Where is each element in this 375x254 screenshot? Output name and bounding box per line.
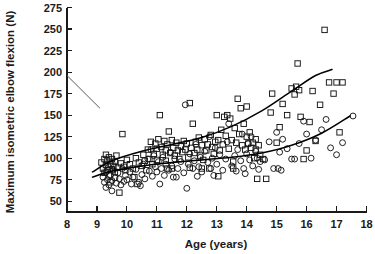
y-tick-label-125: 125 [44, 131, 62, 143]
y-tick-label-175: 175 [44, 88, 62, 100]
x-tick-label-17: 17 [330, 218, 342, 230]
data-point-girls [161, 172, 167, 178]
y-tick-label-75: 75 [50, 174, 62, 186]
data-point-girls [266, 139, 272, 145]
annotations [67, 76, 100, 109]
y-tick-label-200: 200 [44, 66, 62, 78]
y-axis-ticks [67, 8, 72, 202]
data-point-boys [301, 156, 306, 161]
y-tick-label-100: 100 [44, 152, 62, 164]
y-tick-label-50: 50 [50, 195, 62, 207]
data-point-boys [166, 129, 171, 134]
data-point-boys [120, 131, 125, 136]
data-point-girls [340, 140, 346, 146]
data-point-girls [304, 131, 310, 137]
data-point-girls [350, 113, 356, 119]
data-point-girls [128, 181, 134, 187]
data-point-boys [235, 96, 240, 101]
data-point-boys [226, 146, 231, 151]
data-point-boys [268, 110, 273, 115]
elbow-flexion-scatter-figure: 2752502252001751501251007550 89101112131… [0, 0, 375, 254]
pointer-line [67, 76, 100, 109]
data-point-boys [274, 140, 279, 145]
data-point-boys [284, 112, 289, 117]
data-point-girls [130, 174, 136, 180]
data-point-boys [141, 152, 146, 157]
data-point-boys [269, 91, 274, 96]
x-tick-label-13: 13 [211, 218, 223, 230]
y-tick-label-250: 250 [44, 23, 62, 35]
data-point-girls [181, 170, 187, 176]
data-point-boys [334, 80, 339, 85]
data-point-boys [310, 88, 315, 93]
x-axis-title: Age (years) [185, 238, 248, 250]
data-point-girls [235, 147, 241, 153]
data-point-boys [340, 80, 345, 85]
data-points-boys [99, 27, 346, 195]
data-point-girls [280, 136, 286, 142]
data-point-girls [250, 163, 256, 169]
data-point-girls [238, 158, 244, 164]
data-point-girls [109, 188, 115, 194]
y-axis-tick-labels: 2752502252001751501251007550 [44, 2, 62, 208]
data-point-boys [223, 133, 228, 138]
data-point-boys [190, 121, 195, 126]
y-tick-label-275: 275 [44, 2, 62, 14]
data-point-girls [184, 185, 190, 191]
data-point-boys [304, 148, 309, 153]
data-point-boys [280, 101, 285, 106]
data-point-girls [136, 179, 142, 185]
data-point-boys [186, 155, 191, 160]
axes [67, 8, 367, 213]
data-point-girls [334, 152, 340, 158]
data-point-girls [323, 116, 329, 122]
data-point-girls [242, 171, 248, 177]
data-point-boys [157, 112, 162, 117]
y-tick-label-150: 150 [44, 109, 62, 121]
x-tick-label-9: 9 [94, 218, 100, 230]
data-point-boys [331, 91, 336, 96]
x-tick-label-16: 16 [300, 218, 312, 230]
data-point-boys [254, 176, 259, 181]
data-point-boys [117, 190, 122, 195]
data-point-boys [295, 61, 300, 66]
data-point-girls [139, 172, 145, 178]
x-tick-label-15: 15 [271, 218, 283, 230]
y-tick-label-225: 225 [44, 45, 62, 57]
data-point-girls [256, 166, 262, 172]
x-axis-ticks [67, 206, 367, 212]
x-tick-label-8: 8 [64, 218, 70, 230]
chart-canvas: 2752502252001751501251007550 89101112131… [0, 0, 375, 254]
data-point-girls [308, 155, 314, 161]
x-tick-label-18: 18 [360, 218, 372, 230]
data-point-girls [157, 181, 163, 187]
data-point-boys [326, 80, 331, 85]
data-point-girls [208, 166, 214, 172]
x-tick-label-12: 12 [181, 218, 193, 230]
data-point-boys [307, 119, 312, 124]
data-point-girls [220, 167, 226, 173]
x-tick-label-11: 11 [151, 218, 163, 230]
data-point-boys [337, 130, 342, 135]
data-point-boys [214, 112, 219, 117]
data-point-girls [214, 161, 220, 167]
data-point-boys [317, 102, 322, 107]
data-point-girls [194, 173, 200, 179]
data-point-boys [238, 106, 243, 111]
data-point-girls [142, 176, 148, 182]
x-axis-tick-labels: 89101112131415161718 [64, 218, 373, 230]
data-point-girls [328, 145, 334, 151]
data-point-boys [263, 176, 268, 181]
data-point-girls [175, 166, 181, 172]
data-point-boys [244, 104, 249, 109]
x-tick-label-10: 10 [121, 218, 133, 230]
x-tick-label-14: 14 [241, 218, 254, 230]
data-point-boys [322, 27, 327, 32]
data-point-boys [277, 124, 282, 129]
y-axis-title: Maximum isometric elbow flexion (N) [4, 11, 16, 214]
